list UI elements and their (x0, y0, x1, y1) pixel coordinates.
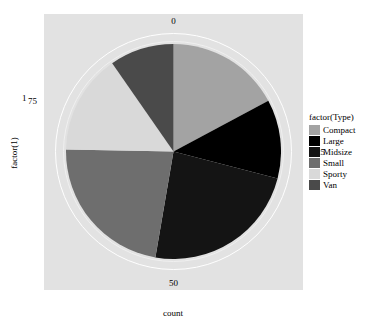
legend-swatch-small (309, 158, 320, 168)
legend-swatch-compact (309, 125, 320, 135)
legend-item-van: Van (309, 179, 383, 190)
legend-item-large: Large (309, 135, 383, 146)
pie-slice-small (66, 150, 173, 258)
legend-label: Midsize (323, 147, 352, 157)
angular-tick-75: 75 (28, 96, 37, 106)
legend-swatch-midsize (309, 147, 320, 157)
angular-tick-50: 50 (169, 278, 178, 288)
pie-chart (66, 44, 281, 259)
plot-panel: 0 25 50 75 (44, 14, 303, 290)
legend-label: Large (323, 136, 344, 146)
legend: factor(Type) CompactLargeMidsizeSmallSpo… (309, 112, 383, 190)
legend-label: Small (323, 158, 344, 168)
pie-slices (66, 44, 281, 259)
legend-title: factor(Type) (309, 112, 383, 122)
legend-item-small: Small (309, 157, 383, 168)
x-axis-title: count (0, 308, 384, 318)
y-axis-title: factor(1) (9, 113, 19, 193)
chart-figure: 0 25 50 75 1 count factor(1) factor(Type… (0, 0, 384, 322)
legend-swatch-van (309, 180, 320, 190)
legend-item-midsize: Midsize (309, 146, 383, 157)
legend-item-compact: Compact (309, 124, 383, 135)
legend-label: Sporty (323, 169, 347, 179)
legend-label: Compact (323, 125, 356, 135)
legend-item-sporty: Sporty (309, 168, 383, 179)
legend-swatch-large (309, 136, 320, 146)
radial-tick-1: 1 (22, 93, 27, 103)
legend-items: CompactLargeMidsizeSmallSportyVan (309, 124, 383, 190)
legend-label: Van (323, 180, 337, 190)
legend-swatch-sporty (309, 169, 320, 179)
angular-tick-0: 0 (171, 16, 176, 26)
